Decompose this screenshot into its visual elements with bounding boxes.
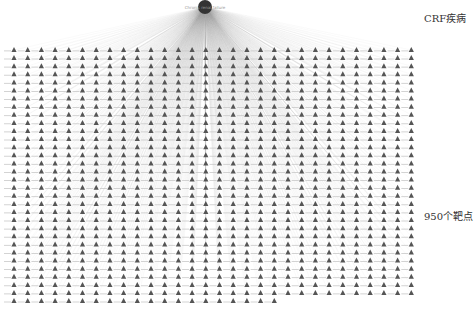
target-node bbox=[39, 96, 44, 101]
target-node bbox=[313, 201, 318, 206]
target-node bbox=[327, 112, 332, 117]
target-node bbox=[11, 266, 16, 271]
target-node bbox=[354, 258, 359, 263]
target-node bbox=[39, 298, 44, 303]
target-node bbox=[368, 274, 373, 279]
target-node bbox=[121, 282, 126, 287]
target-node bbox=[135, 266, 140, 271]
target-node bbox=[11, 112, 16, 117]
target-node bbox=[258, 217, 263, 222]
target-node bbox=[285, 282, 290, 287]
target-node bbox=[285, 258, 290, 263]
target-node bbox=[39, 71, 44, 76]
target-node bbox=[231, 225, 236, 230]
hub-label: Chronic renal failure bbox=[185, 5, 226, 10]
target-node bbox=[148, 160, 153, 165]
target-node bbox=[148, 282, 153, 287]
target-node bbox=[368, 104, 373, 109]
target-node bbox=[176, 177, 181, 182]
target-node bbox=[53, 290, 58, 295]
target-node bbox=[162, 209, 167, 214]
target-node bbox=[409, 282, 414, 287]
target-node bbox=[162, 290, 167, 295]
target-node bbox=[94, 209, 99, 214]
target-node bbox=[354, 233, 359, 238]
target-node bbox=[53, 282, 58, 287]
target-node bbox=[313, 71, 318, 76]
target-node bbox=[285, 274, 290, 279]
target-node bbox=[354, 120, 359, 125]
target-node bbox=[368, 112, 373, 117]
target-node bbox=[409, 209, 414, 214]
target-node bbox=[135, 112, 140, 117]
target-node bbox=[340, 225, 345, 230]
target-node bbox=[190, 241, 195, 246]
target-node bbox=[203, 152, 208, 157]
target-node bbox=[340, 258, 345, 263]
target-node bbox=[285, 233, 290, 238]
target-node bbox=[11, 193, 16, 198]
target-node bbox=[94, 298, 99, 303]
target-node bbox=[148, 201, 153, 206]
target-node bbox=[313, 290, 318, 295]
target-node bbox=[53, 177, 58, 182]
target-node bbox=[285, 266, 290, 271]
target-node bbox=[176, 169, 181, 174]
target-node bbox=[203, 266, 208, 271]
target-node bbox=[354, 71, 359, 76]
target-node bbox=[368, 88, 373, 93]
target-node bbox=[340, 290, 345, 295]
target-node bbox=[66, 258, 71, 263]
target-node bbox=[409, 160, 414, 165]
target-node bbox=[231, 233, 236, 238]
target-node bbox=[285, 201, 290, 206]
target-node bbox=[203, 193, 208, 198]
target-node bbox=[94, 258, 99, 263]
target-node bbox=[25, 250, 30, 255]
target-node bbox=[53, 144, 58, 149]
target-node bbox=[327, 120, 332, 125]
target-node bbox=[107, 96, 112, 101]
target-node bbox=[53, 120, 58, 125]
target-node bbox=[354, 79, 359, 84]
target-node bbox=[25, 241, 30, 246]
target-node bbox=[25, 160, 30, 165]
target-node bbox=[66, 266, 71, 271]
target-node bbox=[94, 233, 99, 238]
target-node bbox=[231, 298, 236, 303]
target-node bbox=[272, 225, 277, 230]
target-node bbox=[285, 290, 290, 295]
target-node bbox=[80, 112, 85, 117]
target-node bbox=[176, 282, 181, 287]
target-node bbox=[217, 209, 222, 214]
target-node bbox=[299, 290, 304, 295]
target-node bbox=[11, 128, 16, 133]
target-node bbox=[354, 136, 359, 141]
target-node bbox=[53, 258, 58, 263]
target-node bbox=[258, 290, 263, 295]
target-node bbox=[80, 63, 85, 68]
target-node bbox=[121, 241, 126, 246]
target-node bbox=[327, 193, 332, 198]
target-node bbox=[121, 71, 126, 76]
target-node bbox=[395, 79, 400, 84]
target-node bbox=[135, 225, 140, 230]
target-node bbox=[162, 201, 167, 206]
target-node bbox=[368, 282, 373, 287]
target-node bbox=[107, 290, 112, 295]
target-node bbox=[11, 136, 16, 141]
target-node bbox=[135, 290, 140, 295]
target-node bbox=[354, 144, 359, 149]
target-node bbox=[39, 136, 44, 141]
target-node bbox=[313, 241, 318, 246]
target-node bbox=[285, 71, 290, 76]
target-node bbox=[107, 274, 112, 279]
target-node bbox=[25, 201, 30, 206]
target-node bbox=[203, 177, 208, 182]
target-node bbox=[395, 104, 400, 109]
target-node bbox=[148, 298, 153, 303]
target-node bbox=[409, 241, 414, 246]
target-node bbox=[53, 250, 58, 255]
target-node bbox=[11, 160, 16, 165]
target-node bbox=[327, 225, 332, 230]
